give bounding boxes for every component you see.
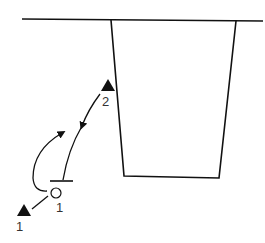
player-triangle-1-label: 1 <box>16 219 23 234</box>
pass-line-1 <box>32 196 48 209</box>
player-triangle-2-label: 2 <box>102 94 109 109</box>
trapezoid-zone <box>111 20 236 178</box>
run-path-arrow-2 <box>82 94 100 126</box>
curved-arrow-1 <box>33 133 62 191</box>
run-path-line-2 <box>63 126 82 180</box>
player-triangle-2 <box>101 79 115 91</box>
player-triangle-1 <box>17 204 31 216</box>
top-boundary-line <box>22 19 263 21</box>
player-circle-1 <box>51 188 61 198</box>
diagram-canvas: 2 1 1 <box>0 0 265 243</box>
player-circle-1-label: 1 <box>56 200 63 215</box>
